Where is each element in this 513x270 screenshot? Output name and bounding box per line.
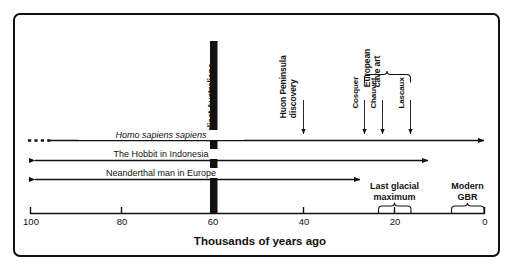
last-glacial-maximum-caption-line2: maximum — [348, 192, 441, 203]
axis-title: Thousands of years ago — [130, 235, 390, 247]
european-cave-art-label: European cave art — [363, 49, 382, 87]
axis-tick-label-20: 20 — [386, 216, 404, 227]
european-cave-art-label-line2: cave art — [372, 49, 382, 87]
axis-tick-label-80: 80 — [113, 216, 131, 227]
last-glacial-maximum-caption-line1: Last glacial — [348, 181, 441, 192]
modern-gbr-brace — [452, 203, 485, 214]
huon-peninsula-discovery-label: Huon Peninsula discovery — [279, 55, 298, 118]
axis-tick-label-100: 100 — [22, 216, 40, 227]
modern-gbr-caption-line2: GBR — [429, 192, 506, 203]
modern-gbr-caption: Modern GBR — [429, 181, 506, 202]
axis-tick-label-0: 0 — [476, 216, 494, 227]
modern-gbr-caption-line1: Modern — [429, 181, 506, 192]
axis-tick-label-40: 40 — [295, 216, 313, 227]
timeline-figure: Earliest Australians Huon Peninsula disc… — [0, 0, 513, 270]
the-hobbit-in-indonesia-label: The Hobbit in Indonesia — [76, 149, 246, 159]
huon-peninsula-discovery-label-line2: discovery — [288, 55, 298, 118]
timeline-graphics — [0, 0, 513, 270]
axis-tick-label-60: 60 — [204, 216, 222, 227]
homo-sapiens-sapiens-label: Homo sapiens sapiens — [78, 130, 244, 140]
lascaux-label: Lascaux — [397, 77, 407, 108]
last-glacial-maximum-caption: Last glacial maximum — [348, 181, 441, 202]
neanderthal-man-in-europe-label: Neanderthal man in Europe — [70, 168, 252, 178]
cosquer-label: Cosquer — [351, 77, 361, 109]
